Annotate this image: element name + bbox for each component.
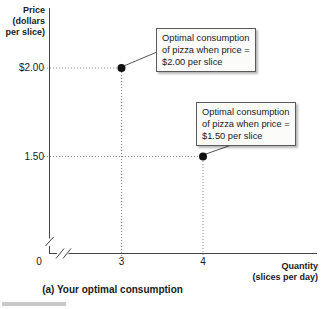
figure-caption: (a) Your optimal consumption [30,284,195,295]
x-axis-title: Quantity (slices per day) [218,261,318,283]
y-axis-title: Price (dollars per slice) [0,5,45,38]
x-tick-label-4: 4 [196,257,210,267]
figure-optimal-consumption: Price (dollars per slice) $2.00 1.50 0 3… [0,0,326,309]
data-point-price-200-qty-3 [118,64,126,72]
y-tick-label-150: 1.50 [0,152,44,162]
x-tick-label-3: 3 [115,257,128,267]
x-tick-label-0: 0 [33,257,45,267]
data-point-price-150-qty-4 [199,153,207,161]
callout-price-200: Optimal consumption of pizza when price … [156,28,256,72]
callout-price-150: Optimal consumption of pizza when price … [196,102,296,146]
x-axis-break-icon [56,249,64,259]
y-tick-label-200: $2.00 [0,63,44,73]
callout-leader-line-1 [125,52,157,66]
scrollbar-stub[interactable] [2,302,66,306]
